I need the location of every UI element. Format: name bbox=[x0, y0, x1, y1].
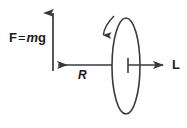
force-vector-symbol: F bbox=[9, 30, 17, 45]
physics-diagram: F=mg R L bbox=[0, 0, 187, 128]
spin-direction-curved-arrow bbox=[103, 16, 114, 35]
radius-label: R bbox=[78, 69, 87, 81]
spinning-ring-ellipse bbox=[112, 18, 140, 114]
angular-momentum-label: L bbox=[172, 58, 180, 71]
gravity-symbol: g bbox=[38, 30, 46, 45]
force-equals-sign: = bbox=[17, 30, 27, 45]
diagram-canvas bbox=[0, 0, 187, 128]
force-label: F=mg bbox=[9, 31, 46, 44]
mass-symbol: m bbox=[27, 30, 39, 45]
